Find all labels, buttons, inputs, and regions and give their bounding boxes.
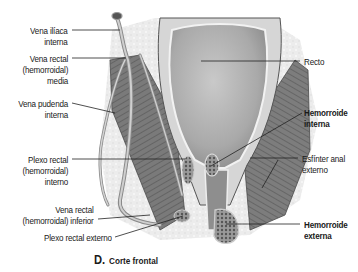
internal-plexus [182,156,194,184]
label-vena-iliaca-interna: Vena ilíaca interna [30,25,68,47]
label-hemorroide-interna: Hemorroide interna [304,107,348,129]
iliac-vein-cut [112,13,122,20]
label-plexo-rectal-externo: Plexo rectal externo [44,232,112,243]
figure-caption: D. Corte frontal [94,250,158,268]
label-vena-rectal-media: Vena rectal (hemorroidal) media [22,53,68,86]
label-plexo-rectal-interno: Plexo rectal (hemorroidal) interno [22,154,68,187]
label-vena-rectal-inferior: Vena rectal (hemorroidal) inferior [23,204,94,226]
label-vena-pudenda-interna: Vena pudenda interna [18,98,68,120]
label-hemorroide-externa: Hemorroide externa [304,219,348,241]
caption-text: Corte frontal [109,255,158,266]
caption-letter: D. [94,252,105,267]
label-esfinter-anal-externo: Esfínter anal externo [302,153,345,175]
label-recto: Recto [304,56,324,67]
